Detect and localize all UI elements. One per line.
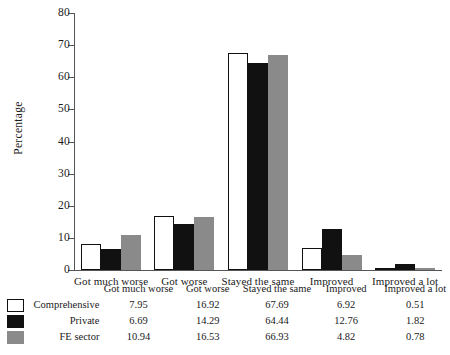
bar [342, 255, 362, 270]
legend-data-table: Got much worseGot worseStayed the sameIm… [0, 281, 450, 345]
bar [395, 264, 415, 270]
table-cell-value: 1.82 [380, 313, 450, 329]
table-cell-value: 16.92 [173, 297, 242, 313]
table-cell-value: 16.53 [173, 329, 242, 345]
table-row: Comprehensive7.9516.9267.696.920.51 [0, 297, 450, 313]
table-cell-value: 7.95 [103, 297, 173, 313]
table-cell-value: 10.94 [103, 329, 173, 345]
table-row: Private6.6914.2964.4412.761.82 [0, 313, 450, 329]
y-axis-line [74, 13, 75, 270]
header-swatch-spacer [0, 281, 26, 297]
bar-group [375, 13, 435, 270]
bar-group [154, 13, 214, 270]
table-cell-value: 67.69 [242, 297, 312, 313]
table-body: Comprehensive7.9516.9267.696.920.51Priva… [0, 297, 450, 345]
table-cell-value: 4.82 [312, 329, 380, 345]
table-header-row: Got much worseGot worseStayed the sameIm… [0, 281, 450, 297]
bar [174, 224, 194, 270]
table-column-header: Improved a lot [380, 281, 450, 297]
legend-series-name: Private [26, 313, 104, 329]
bar [322, 229, 342, 270]
plot-area: 01020304050607080 Got much worseGot wors… [74, 13, 442, 270]
legend-series-name: FE sector [26, 329, 104, 345]
table-cell-value: 66.93 [242, 329, 312, 345]
legend-swatch-cell [0, 297, 26, 313]
table-column-header: Stayed the same [242, 281, 312, 297]
bar-group [302, 13, 362, 270]
bar [228, 53, 248, 270]
bar [268, 55, 288, 270]
table-column-header: Got much worse [103, 281, 173, 297]
y-tick-label: 20 [58, 198, 70, 213]
y-tick-label: 0 [64, 262, 70, 277]
table-cell-value: 6.69 [103, 313, 173, 329]
table-cell-value: 6.92 [312, 297, 380, 313]
y-tick-label: 70 [58, 37, 70, 52]
table-cell-value: 12.76 [312, 313, 380, 329]
table-column-header: Got worse [173, 281, 242, 297]
y-tick-label: 10 [58, 230, 70, 245]
y-tick-label: 30 [58, 166, 70, 181]
header-series-spacer [26, 281, 104, 297]
legend-series-name: Comprehensive [26, 297, 104, 313]
bar-group [81, 13, 141, 270]
table-cell-value: 14.29 [173, 313, 242, 329]
bar [302, 248, 322, 270]
bar [101, 249, 121, 270]
table-column-header: Improved [312, 281, 380, 297]
bar [81, 244, 101, 270]
legend-swatch-cell [0, 313, 26, 329]
table-cell-value: 0.51 [380, 297, 450, 313]
table-row: FE sector10.9416.5366.934.820.78 [0, 329, 450, 345]
legend-swatch-cell [0, 329, 26, 345]
bar [375, 268, 395, 270]
bar-group [228, 13, 288, 270]
legend-swatch-icon [7, 299, 24, 312]
y-tick-label: 60 [58, 69, 70, 84]
y-tick-label: 80 [58, 5, 70, 20]
bar-chart-figure: Percentage 01020304050607080 Got much wo… [0, 0, 450, 355]
bar [415, 268, 435, 271]
bar [194, 217, 214, 270]
table-cell-value: 64.44 [242, 313, 312, 329]
y-axis-title: Percentage [12, 101, 24, 154]
table-cell-value: 0.78 [380, 329, 450, 345]
bar [248, 63, 268, 270]
bar [121, 235, 141, 270]
x-axis-line [74, 270, 442, 271]
y-tick-label: 40 [58, 134, 70, 149]
y-tick-label: 50 [58, 101, 70, 116]
bar [154, 216, 174, 270]
legend-swatch-icon [7, 315, 24, 328]
legend-swatch-icon [7, 331, 24, 344]
